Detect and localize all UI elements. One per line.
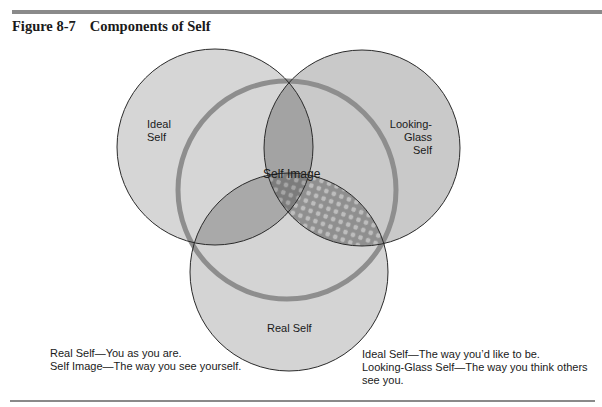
real-self-label: Real Self — [267, 322, 312, 335]
legend-looking-glass-self: Looking-Glass Self—The way you think oth… — [362, 361, 588, 374]
legend-real-self: Real Self—You as you are. — [50, 347, 241, 360]
legend-ideal-self: Ideal Self—The way you’d like to be. — [362, 348, 588, 361]
legend-left: Real Self—You as you are. Self Image—The… — [50, 347, 241, 373]
bottom-rule — [10, 400, 595, 402]
venn-diagram — [0, 0, 602, 407]
legend-self-image: Self Image—The way you see yourself. — [50, 360, 241, 373]
ideal-self-label: Ideal Self — [147, 118, 171, 144]
self-image-label: Self Image — [263, 168, 320, 181]
legend-looking-glass-self-cont: see you. — [362, 374, 588, 387]
looking-glass-self-label: Looking- Glass Self — [380, 118, 432, 157]
legend-right: Ideal Self—The way you’d like to be. Loo… — [362, 348, 588, 387]
